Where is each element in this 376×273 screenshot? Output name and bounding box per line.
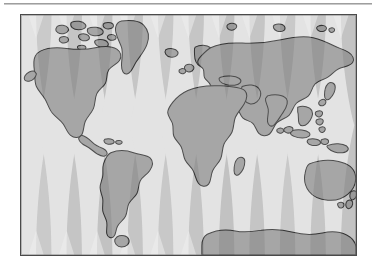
world-map-frame	[20, 14, 357, 256]
scan-tint	[21, 15, 356, 255]
top-horizontal-rule-shadow	[4, 4, 372, 5]
world-map-graphic	[21, 15, 356, 255]
figure-page	[0, 0, 376, 273]
